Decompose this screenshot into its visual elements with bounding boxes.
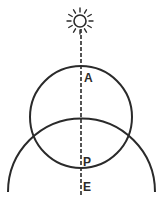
label-p: P <box>83 155 91 169</box>
label-e: E <box>83 180 91 194</box>
label-a: A <box>84 71 93 85</box>
diagram-svg: A P E <box>0 0 161 201</box>
sun-icon <box>67 8 93 34</box>
diagram-canvas: A P E <box>0 0 161 201</box>
